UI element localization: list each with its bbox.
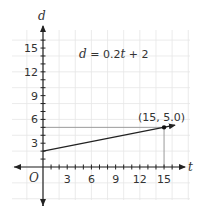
data-line — [43, 125, 175, 151]
y-axis-label: d — [38, 9, 46, 23]
y-tick-labels: 3691215 — [24, 42, 38, 150]
svg-text:12: 12 — [133, 173, 147, 186]
point-label: (15, 5.0) — [138, 111, 185, 124]
svg-text:15: 15 — [24, 42, 38, 55]
x-tick-labels: 3691215 — [64, 173, 171, 186]
coordinate-plane: d t O d = 0.2t + 2 (15, 5.0) 3691215 369… — [0, 0, 204, 211]
svg-text:15: 15 — [157, 173, 171, 186]
svg-text:12: 12 — [24, 66, 38, 79]
equation-label: d = 0.2t + 2 — [79, 47, 148, 61]
svg-text:9: 9 — [31, 90, 38, 103]
x-axis-label: t — [188, 160, 193, 174]
data-point — [162, 125, 166, 129]
svg-text:3: 3 — [64, 173, 71, 186]
svg-text:3: 3 — [31, 137, 38, 150]
svg-text:9: 9 — [112, 173, 119, 186]
svg-text:6: 6 — [88, 173, 95, 186]
svg-text:6: 6 — [31, 113, 38, 126]
origin-label: O — [29, 171, 39, 185]
